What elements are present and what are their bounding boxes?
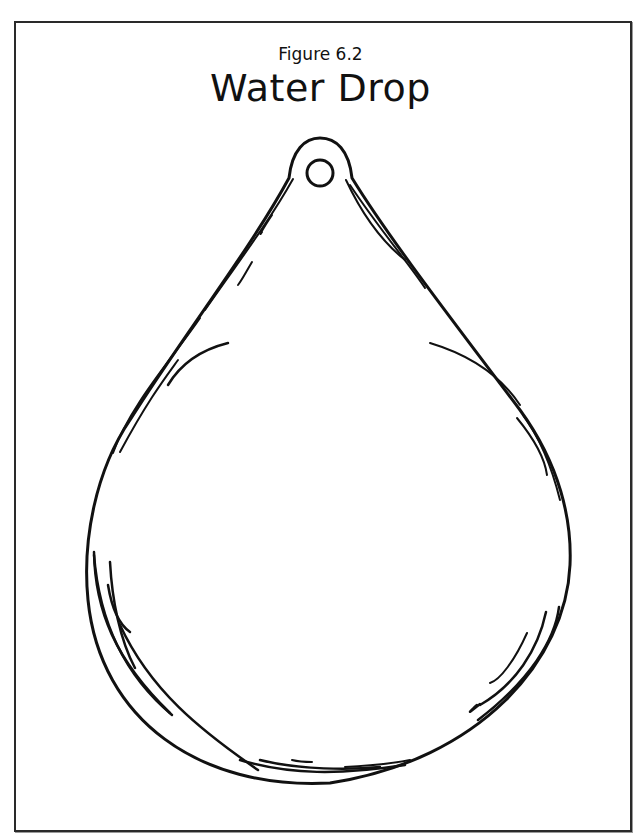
water-drop-illustration — [0, 0, 641, 838]
hanging-hole — [307, 160, 333, 186]
